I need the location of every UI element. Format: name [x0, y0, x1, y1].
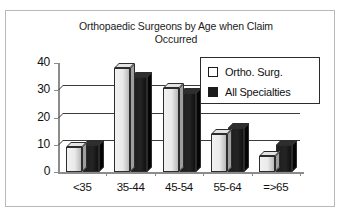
bar-front-face [211, 134, 227, 172]
bar-side-face [99, 140, 104, 172]
bar-side-face [147, 72, 152, 172]
y-axis-tick-label: 10 [28, 137, 50, 151]
bar-front-face [163, 88, 179, 172]
bar-front-face [114, 68, 130, 172]
legend-label-ortho-surg: Ortho. Surg. [225, 66, 283, 78]
x-axis-tick-label: 45-54 [154, 181, 204, 193]
legend-item-all-specialties: All Specialties [208, 83, 290, 100]
x-axis-tick [155, 172, 156, 176]
bar-chart: Orthopaedic Surgeons by Age when Claim O… [0, 0, 348, 223]
x-axis-tick [252, 172, 253, 176]
bar-side-face [179, 83, 184, 172]
bar-35-ortho-surg [66, 147, 82, 172]
y-axis-tick-label: 0 [28, 164, 50, 178]
x-axis-tick [106, 172, 107, 176]
bar-side-face [292, 140, 297, 172]
bar-front-face [66, 147, 82, 172]
x-axis-tick [300, 172, 301, 176]
light-square-icon [208, 67, 218, 77]
bar-front-face [259, 156, 275, 172]
bar-side-face [82, 142, 87, 172]
dark-square-icon [208, 87, 218, 97]
bar-side-face [130, 63, 135, 172]
x-axis-tick-label: =>65 [251, 181, 301, 193]
legend-item-ortho-surg: Ortho. Surg. [208, 63, 283, 80]
y-axis-tick [54, 172, 58, 173]
legend-label-all-specialties: All Specialties [225, 86, 290, 98]
bar-65-ortho-surg [259, 156, 275, 172]
chart-title-line-1: Orthopaedic Surgeons by Age when Claim [79, 20, 273, 32]
bar-55-64-ortho-surg [211, 134, 227, 172]
bar-45-54-ortho-surg [163, 88, 179, 172]
y-axis-tick-label: 30 [28, 82, 50, 96]
bar-side-face [227, 129, 232, 172]
bar-35-44-ortho-surg [114, 68, 130, 172]
x-axis-tick-label: 35-44 [106, 181, 156, 193]
chart-title-line-2: Occurred [155, 33, 197, 45]
y-axis-tick-label: 20 [28, 110, 50, 124]
y-axis-tick [54, 90, 58, 91]
y-axis-tick [54, 63, 58, 64]
bar-side-face [244, 123, 249, 172]
x-axis-tick-label: <35 [57, 181, 107, 193]
x-axis-tick-label: 55-64 [202, 181, 252, 193]
y-axis-tick-label: 40 [28, 55, 50, 69]
chart-legend: Ortho. Surg. All Specialties [200, 57, 320, 104]
x-axis-tick [203, 172, 204, 176]
chart-title: Orthopaedic Surgeons by Age when Claim O… [56, 20, 296, 46]
x-axis-line [58, 172, 304, 174]
